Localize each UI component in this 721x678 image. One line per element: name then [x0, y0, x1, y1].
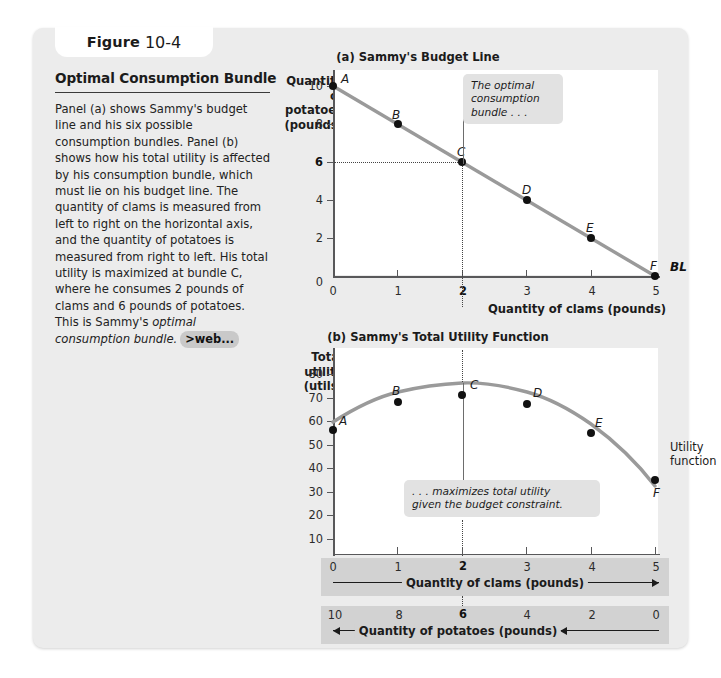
panel-b-ylabel-50: 50 [289, 438, 323, 452]
figure-number-tab: Figure 10-4 [55, 27, 213, 57]
clams-value-3: 3 [523, 560, 530, 574]
panel-b-point-D[interactable] [523, 400, 531, 408]
panel-b-callout: . . . maximizes total utility given the … [404, 480, 600, 517]
panel-a-point-label-F: F [650, 259, 657, 273]
panel-b-ylabel-10: 10 [289, 532, 323, 546]
strip-connector-dots [462, 596, 463, 606]
clams-value-1: 1 [394, 560, 401, 574]
panel-b-xtick-2 [462, 547, 463, 555]
panel-b-point-label-F: F [653, 486, 660, 500]
panel-a-guide-vertical [462, 162, 463, 307]
panel-a-callout: The optimal consumption bundle . . . [463, 74, 563, 124]
web-link-badge[interactable]: >web... [180, 331, 239, 348]
figure-card: Figure 10-4 Optimal Consumption Bundle P… [33, 28, 688, 648]
figure-number: 10-4 [145, 33, 181, 52]
panel-a-point-label-C: C [457, 145, 465, 159]
panel-a-point-E[interactable] [587, 234, 595, 242]
panel-b-xtick-1 [397, 547, 398, 555]
panel-a-point-label-E: E [586, 221, 594, 235]
panel-b-ylabel-20: 20 [289, 508, 323, 522]
caption-body-main: Panel (a) shows Sammy's budget line and … [55, 102, 270, 329]
clams-value-2: 2 [459, 559, 467, 573]
clams-axis-label: Quantity of clams (pounds) [402, 576, 588, 590]
panel-a-ylabel-4: 4 [289, 193, 323, 207]
panel-a-ylabel-8: 8 [289, 117, 323, 131]
potatoes-value-4: 4 [523, 608, 530, 622]
clams-value-4: 4 [588, 560, 595, 574]
potatoes-value-6: 6 [459, 607, 467, 621]
panel-b-point-B[interactable] [394, 398, 402, 406]
panel-a-ylabel-10: 10 [289, 79, 323, 93]
panel-a-xlabel-4: 4 [580, 284, 604, 298]
panel-b-callout-l1: . . . maximizes total utility [412, 485, 592, 498]
panel-b-point-label-A: A [339, 414, 347, 428]
panel-b-graph [333, 348, 663, 560]
panel-a-callout-l2: consumption [471, 92, 555, 105]
panel-a-point-label-D: D [522, 183, 531, 197]
panel-b-ylabel-70: 70 [289, 391, 323, 405]
caption-text: Panel (a) shows Sammy's budget line and … [55, 101, 271, 348]
panel-a-point-A[interactable] [329, 82, 337, 90]
panel-b-ylabel-60: 60 [289, 414, 323, 428]
panel-b-callout-l2: given the budget constraint. [412, 498, 592, 511]
panel-a-point-F[interactable] [651, 272, 659, 280]
panel-a-point-label-B: B [392, 108, 400, 122]
panel-a-guide-horizontal [334, 162, 462, 163]
panel-b-ylabel-30: 30 [289, 485, 323, 499]
panel-b-point-A[interactable] [329, 426, 337, 434]
panel-b-ylabel-80: 80 [289, 367, 323, 381]
budget-line-label: BL [670, 260, 687, 274]
figure-label: Figure [87, 34, 140, 50]
potatoes-arrow-head-start [333, 627, 340, 635]
panel-b-point-label-B: B [392, 384, 400, 398]
potatoes-value-2: 2 [588, 608, 595, 622]
potatoes-value-10: 10 [328, 608, 343, 622]
panel-a-ylabel-2: 2 [289, 231, 323, 245]
panel-a-callout-leader [463, 118, 464, 164]
panel-a-xlabel-2: 2 [451, 284, 475, 298]
potatoes-value-0: 0 [652, 608, 659, 622]
panel-b-point-label-D: D [533, 386, 542, 400]
panel-b-point-F[interactable] [651, 476, 659, 484]
panel-b-guide-vertical-top [462, 350, 463, 382]
panel-b-x-axis [333, 554, 660, 555]
panel-a-point-C[interactable] [458, 158, 466, 166]
panel-b-ylabel-40: 40 [289, 461, 323, 475]
panel-a-xlabel-5: 5 [644, 284, 668, 298]
panel-b-point-label-C: C [470, 378, 478, 392]
panel-b-point-label-E: E [595, 416, 603, 430]
clams-value-5: 5 [652, 560, 659, 574]
panel-a-point-label-A: A [341, 72, 349, 86]
panel-b-point-E[interactable] [587, 429, 595, 437]
panel-b-title: (b) Sammy's Total Utility Function [258, 330, 618, 344]
potatoes-axis-label: Quantity of potatoes (pounds) [355, 624, 561, 638]
caption-panel: Optimal Consumption Bundle Panel (a) sho… [55, 70, 283, 348]
caption-divider [55, 92, 270, 93]
panel-a-xlabel-0: 0 [321, 284, 345, 298]
panel-a-callout-l1: The optimal [471, 79, 555, 92]
panel-a-point-D[interactable] [523, 196, 531, 204]
utility-function-curve [333, 383, 655, 486]
panel-a-callout-l3: bundle . . . [471, 106, 555, 119]
panel-b-point-C[interactable] [458, 391, 466, 399]
panel-a-ylabel-0: 0 [289, 275, 323, 289]
utility-function-label-l2: function [670, 454, 717, 468]
figure-title: Optimal Consumption Bundle [55, 70, 283, 92]
panel-a-title: (a) Sammy's Budget Line [258, 50, 578, 64]
panel-b-xtick-5 [655, 547, 656, 555]
panel-a-x-axis-title: Quantity of clams (pounds) [488, 302, 666, 316]
utility-function-label: Utility function [670, 440, 717, 468]
panel-a-xlabel-1: 1 [386, 284, 410, 298]
panel-a-xlabel-3: 3 [515, 284, 539, 298]
clams-value-0: 0 [329, 560, 336, 574]
potatoes-value-8: 8 [395, 608, 402, 622]
panel-a-ylabel-6: 6 [289, 155, 323, 169]
clams-arrow-head-end [652, 579, 659, 587]
panel-b-xtick-3 [526, 547, 527, 555]
utility-function-label-l1: Utility [670, 440, 717, 454]
panel-b-xtick-4 [591, 547, 592, 555]
